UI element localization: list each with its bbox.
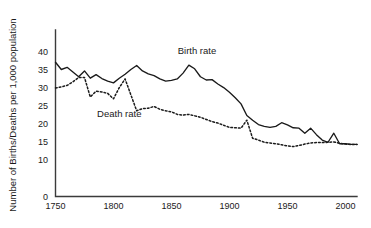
birth-death-rate-line-chart: Number of Births/Deaths per 1,000 popula… <box>0 0 371 228</box>
chart-container: Number of Births/Deaths per 1,000 popula… <box>0 0 371 228</box>
y-tick-label: 40 <box>38 47 48 57</box>
x-tick-label: 1750 <box>45 201 65 211</box>
series-annotation-label: Birth rate <box>178 45 217 56</box>
y-axis-title: Number of Births/Deaths per 1,000 popula… <box>7 18 18 211</box>
y-tick-label: 25 <box>38 101 48 111</box>
x-tick-label: 1800 <box>103 201 123 211</box>
x-tick-label: 1900 <box>219 201 239 211</box>
series-annotation-label: Death rate <box>97 108 141 119</box>
x-tick-label: 1850 <box>161 201 181 211</box>
y-axis-tick-labels: 010152025303540 <box>38 47 48 202</box>
birth-rate-line <box>56 62 358 144</box>
y-tick-label: 15 <box>38 137 48 147</box>
y-axis-title-group: Number of Births/Deaths per 1,000 popula… <box>7 18 18 211</box>
y-tick-label: 20 <box>38 119 48 129</box>
x-tick-label: 2000 <box>335 201 355 211</box>
x-tick-label: 1950 <box>277 201 297 211</box>
y-tick-label: 10 <box>38 155 48 165</box>
y-tick-label: 30 <box>38 83 48 93</box>
x-axis-tick-labels: 175018001850190019502000 <box>45 201 355 211</box>
y-tick-label: 35 <box>38 65 48 75</box>
